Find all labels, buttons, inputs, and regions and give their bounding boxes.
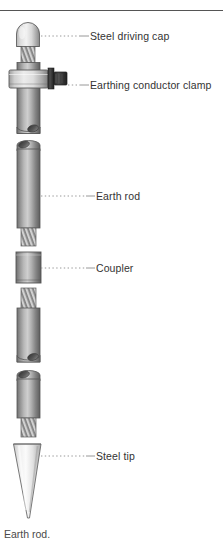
label-earth-rod: Earth rod <box>96 190 140 202</box>
steel-driving-cap-part <box>17 23 40 47</box>
steel-tip-part <box>14 444 42 518</box>
earthing-conductor-clamp-part <box>9 70 48 88</box>
earth-rod-figure: Steel driving cap Earthing conductor cla… <box>0 0 223 555</box>
leader-lines <box>41 36 95 456</box>
rod-thread-1-part <box>21 228 36 246</box>
earth-rod-section-2-part <box>17 140 40 228</box>
label-coupler: Coupler <box>96 262 133 274</box>
figure-caption: Earth rod. <box>4 528 50 540</box>
rod-thread-3-part <box>21 418 36 437</box>
earth-rod-section-3-part <box>17 308 40 362</box>
earth-rod-section-4-part <box>17 370 40 418</box>
rod-thread-2-part <box>21 288 36 310</box>
label-steel-tip: Steel tip <box>96 450 135 462</box>
label-earthing-conductor-clamp: Earthing conductor clamp <box>90 79 211 91</box>
cap-thread-part <box>21 47 35 63</box>
label-steel-driving-cap: Steel driving cap <box>90 30 169 42</box>
coupler-part <box>16 252 41 283</box>
clamp-bolt-part <box>48 68 67 89</box>
